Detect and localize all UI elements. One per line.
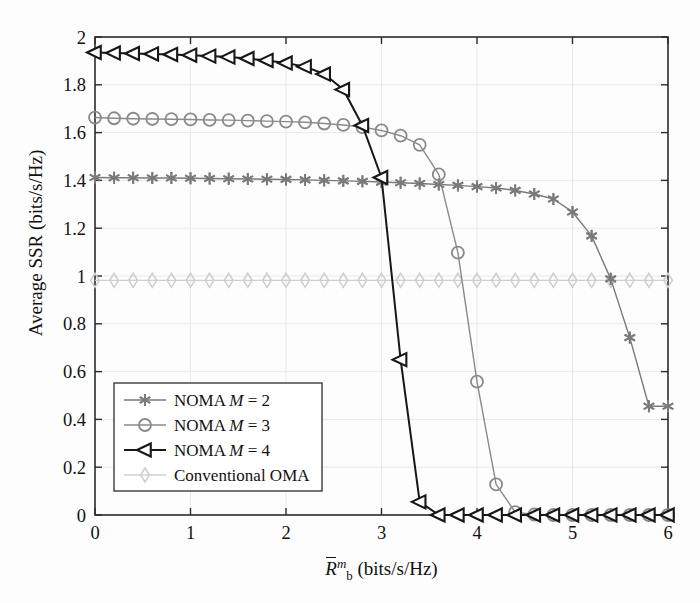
x-tick-label: 5 bbox=[568, 523, 577, 543]
y-tick-label: 2 bbox=[77, 28, 86, 48]
left-triangle-marker bbox=[660, 508, 674, 521]
left-triangle-marker bbox=[278, 56, 292, 69]
y-tick-label: 0.2 bbox=[63, 458, 86, 478]
left-triangle-marker bbox=[584, 508, 598, 521]
y-tick-label: 0 bbox=[77, 506, 86, 526]
chart-canvas: 012345600.20.40.60.811.21.41.61.82 NOMA … bbox=[0, 0, 700, 603]
left-triangle-marker bbox=[125, 47, 139, 60]
left-triangle-marker bbox=[565, 508, 579, 521]
y-tick-label: 0.6 bbox=[63, 362, 86, 382]
y-tick-label: 1.4 bbox=[63, 171, 86, 191]
left-triangle-marker bbox=[259, 54, 273, 67]
x-tick-label: 0 bbox=[90, 523, 99, 543]
left-triangle-marker bbox=[221, 51, 235, 64]
left-triangle-marker bbox=[87, 46, 101, 59]
left-triangle-marker bbox=[450, 508, 464, 521]
x-tick-label: 4 bbox=[472, 523, 481, 543]
left-triangle-marker bbox=[622, 508, 636, 521]
left-triangle-marker bbox=[603, 508, 617, 521]
x-tick-label: 2 bbox=[281, 523, 290, 543]
legend-label: NOMA M = 4 bbox=[174, 441, 271, 460]
legend-label: NOMA M = 3 bbox=[174, 416, 270, 435]
x-axis-label-superscript: m bbox=[337, 556, 346, 571]
legend-label: Conventional OMA bbox=[174, 466, 310, 485]
y-tick-label: 1.2 bbox=[63, 219, 86, 239]
left-triangle-marker bbox=[545, 508, 559, 521]
y-tick-label: 1.6 bbox=[63, 123, 86, 143]
left-triangle-marker bbox=[297, 60, 311, 73]
y-axis-label-text: Average SSR (bits/s/Hz) bbox=[25, 150, 46, 336]
left-triangle-marker bbox=[641, 508, 655, 521]
x-tick-label: 6 bbox=[663, 523, 672, 543]
left-triangle-marker bbox=[469, 508, 483, 521]
left-triangle-marker bbox=[106, 46, 120, 59]
chart-legend[interactable]: NOMA M = 2NOMA M = 3NOMA M = 4Convention… bbox=[114, 383, 322, 491]
left-triangle-marker bbox=[144, 47, 158, 60]
x-tick-label: 3 bbox=[377, 523, 386, 543]
x-axis-label-symbol: R bbox=[325, 558, 337, 579]
chart-figure: 012345600.20.40.60.811.21.41.61.82 NOMA … bbox=[0, 0, 700, 603]
y-axis-label: Average SSR (bits/s/Hz) bbox=[25, 63, 47, 423]
left-triangle-marker bbox=[316, 67, 330, 80]
y-tick-label: 0.4 bbox=[63, 410, 86, 430]
x-axis-label-units: (bits/s/Hz) bbox=[353, 558, 438, 579]
left-triangle-marker bbox=[163, 48, 177, 61]
left-triangle-marker bbox=[240, 52, 254, 65]
left-triangle-marker bbox=[202, 50, 216, 63]
legend-label: NOMA M = 2 bbox=[174, 391, 270, 410]
y-tick-label: 0.8 bbox=[63, 314, 86, 334]
y-tick-label: 1.8 bbox=[63, 75, 86, 95]
x-axis-label: Rmb (bits/s/Hz) bbox=[95, 556, 668, 584]
left-triangle-marker bbox=[183, 49, 197, 62]
y-tick-label: 1 bbox=[77, 267, 86, 287]
x-tick-label: 1 bbox=[186, 523, 195, 543]
left-triangle-marker bbox=[488, 508, 502, 521]
